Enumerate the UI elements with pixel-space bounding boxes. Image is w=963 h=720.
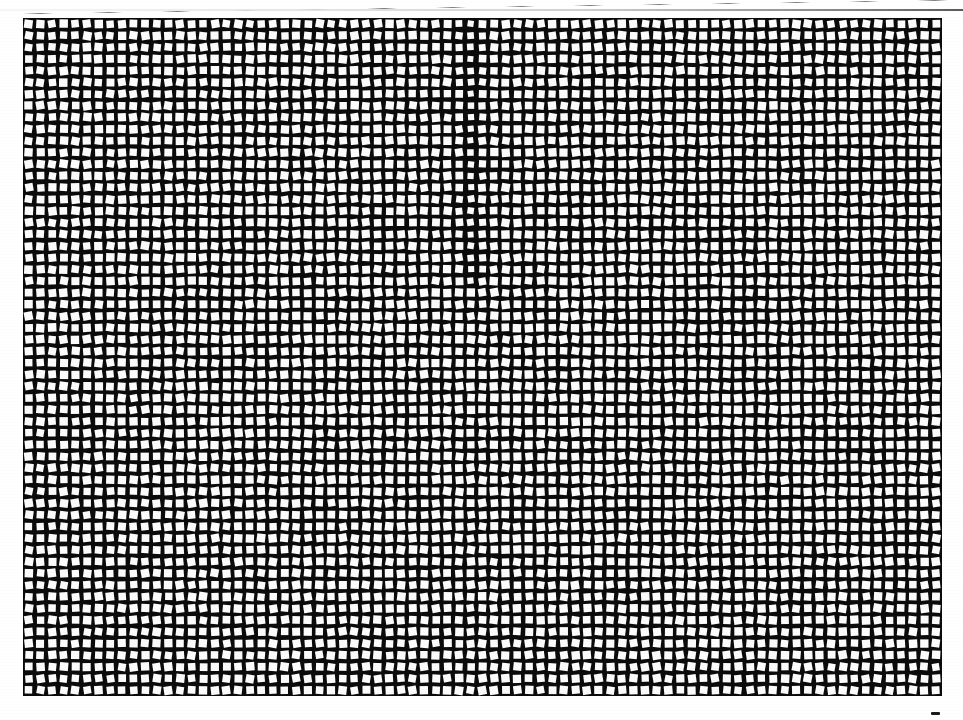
scanned-page: Scanned grid test pattern Full-bleed sca… [0,0,963,720]
grid-pattern-plate [23,18,942,696]
chart-title: Scanned grid test pattern [0,0,1,1]
seam-description: Faint darker vertical seam in the upper … [0,0,1,1]
page-title: Scanned grid test pattern [0,0,1,1]
top-scan-line [0,9,963,11]
chart-subtitle: Randomly rotated white squares on a blac… [0,0,1,1]
scanner-edge-artifact [0,0,963,14]
stray-ink-mark [931,712,940,715]
grid-pattern-canvas [23,18,942,696]
page-description: Full-bleed scan of a printed halftone ca… [0,0,1,1]
